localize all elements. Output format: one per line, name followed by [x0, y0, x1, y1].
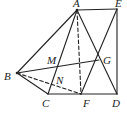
label-N: N: [55, 74, 64, 86]
label-F: F: [82, 97, 90, 109]
label-A: A: [72, 0, 80, 9]
segment-BG: [17, 60, 99, 73]
geometry-figure: AEBMGNCFD: [0, 0, 127, 119]
label-G: G: [103, 54, 111, 66]
vertex-dot-A: [76, 9, 79, 12]
segments: [16, 9, 117, 94]
label-C: C: [42, 97, 50, 109]
segment-BC: [17, 73, 48, 94]
label-B: B: [4, 70, 11, 82]
segment-FE: [81, 9, 117, 94]
segment-AE: [77, 9, 117, 10]
segment-AF-dashed: [77, 10, 81, 94]
label-M: M: [46, 54, 57, 66]
label-D: D: [111, 97, 120, 109]
vertex-dot-B: [16, 72, 19, 75]
label-E: E: [114, 0, 122, 9]
point-labels: AEBMGNCFD: [4, 0, 122, 109]
